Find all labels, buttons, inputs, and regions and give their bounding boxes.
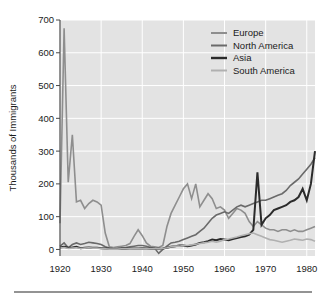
x-tick-label: 1960 (214, 263, 235, 274)
x-tick-label: 1930 (91, 263, 112, 274)
legend-label-europe: Europe (233, 27, 264, 38)
y-tick-label: 300 (38, 146, 54, 157)
y-tick-label: 100 (38, 211, 54, 222)
x-tick-label: 1980 (296, 263, 317, 274)
y-tick-label: 600 (38, 47, 54, 58)
x-tick-label: 1970 (255, 263, 276, 274)
x-tick-label: 1950 (173, 263, 194, 274)
y-axis-title: Thousands of Immigrants (7, 84, 18, 191)
legend-label-south-america: South America (233, 65, 295, 76)
x-tick-label: 1920 (49, 263, 70, 274)
legend-label-north-america: North America (233, 40, 294, 51)
legend-label-asia: Asia (233, 52, 252, 63)
y-tick-label: 200 (38, 178, 54, 189)
x-tick-label: 1940 (132, 263, 153, 274)
y-tick-label: 700 (38, 14, 54, 25)
y-tick-label: 500 (38, 80, 54, 91)
immigration-line-chart: 0100200300400500600700 19201930194019501… (0, 0, 326, 304)
y-tick-label: 0 (49, 244, 54, 255)
plot-area-background (60, 20, 315, 256)
y-tick-label: 400 (38, 113, 54, 124)
figure-container: 0100200300400500600700 19201930194019501… (0, 0, 326, 304)
